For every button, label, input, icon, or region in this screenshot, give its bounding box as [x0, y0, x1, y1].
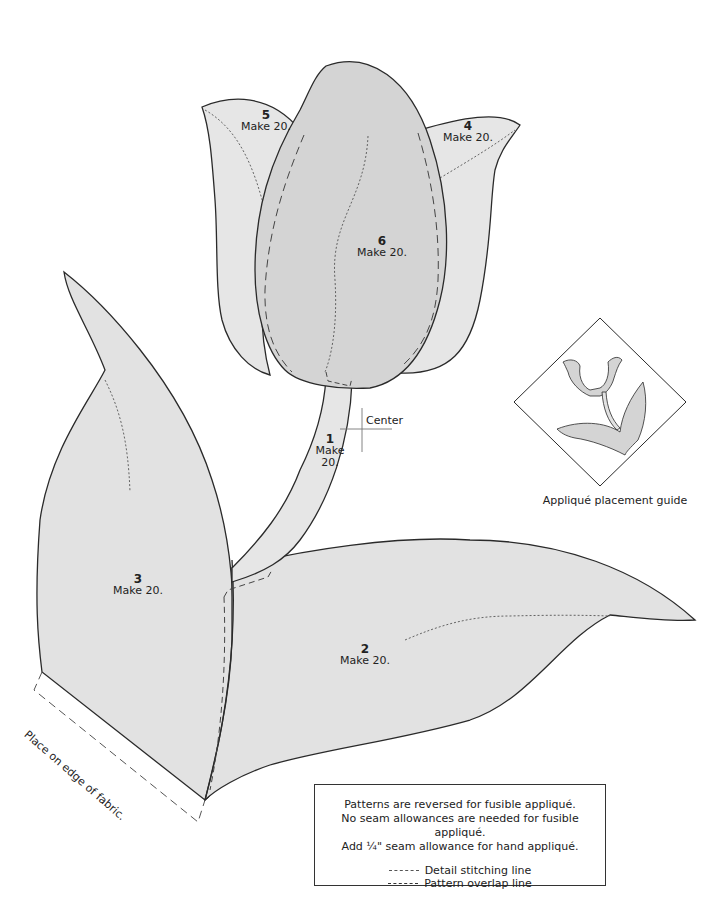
piece-2-make: Make 20.	[340, 654, 390, 667]
piece-1-make-count: 20.	[310, 457, 350, 469]
legend-detail-label: Detail stitching line	[425, 864, 532, 877]
dashed-line-icon	[388, 883, 418, 884]
legend-detail-stitching: Detail stitching line	[315, 864, 605, 877]
note-line-3: Add ¼" seam allowance for hand appliqué.	[315, 840, 605, 854]
note-line-1: Patterns are reversed for fusible appliq…	[315, 798, 605, 812]
pattern-notes-box: Patterns are reversed for fusible appliq…	[314, 784, 606, 886]
piece-3-label: 3 Make 20.	[110, 573, 166, 597]
piece-5-label: 5 Make 20.	[238, 109, 294, 133]
tulip-pattern-drawing	[0, 0, 718, 906]
piece-3-make: Make 20.	[113, 584, 163, 597]
note-line-2: No seam allowances are needed for fusibl…	[315, 812, 605, 840]
piece-1-label: 1 Make 20.	[310, 433, 350, 469]
line-legend: Detail stitching line Pattern overlap li…	[315, 864, 605, 890]
placement-guide-caption: Appliqué placement guide	[520, 494, 710, 507]
legend-overlap-label: Pattern overlap line	[424, 877, 532, 890]
placement-guide-diagram	[514, 318, 686, 486]
piece-4-label: 4 Make 20.	[440, 120, 496, 144]
piece-6-make: Make 20.	[357, 246, 407, 259]
dotted-line-icon	[389, 870, 419, 871]
piece-2-leaf-shape	[205, 539, 695, 800]
center-label: Center	[366, 414, 403, 427]
piece-6-label: 6 Make 20.	[354, 235, 410, 259]
legend-pattern-overlap: Pattern overlap line	[315, 877, 605, 890]
piece-5-make: Make 20.	[241, 120, 291, 133]
piece-4-make: Make 20.	[443, 131, 493, 144]
piece-2-label: 2 Make 20.	[337, 643, 393, 667]
piece-3-leaf-shape	[37, 272, 233, 800]
